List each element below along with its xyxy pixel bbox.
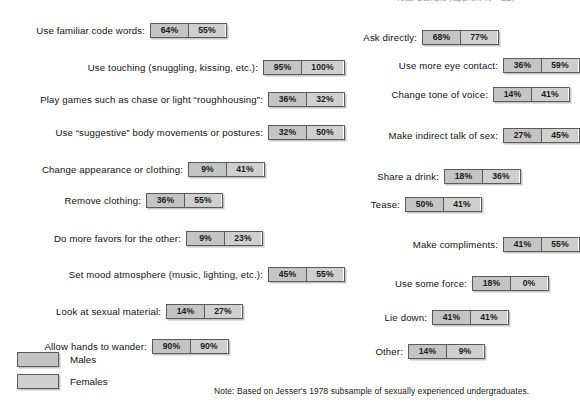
bar-row: Use “suggestive” body movements or postu… [0,122,345,142]
bar-segment-males: 50% [406,198,443,211]
bar-row-label: Change appearance or clothing: [42,164,188,175]
bar-segment-females: 45% [541,129,578,142]
bar-row: Other:14%9% [356,341,485,361]
chart-note: Note: Based on Jesser's 1978 subsample o… [214,386,529,396]
bar-row-label: Lie down: [385,312,432,323]
bar-row: Use more eye contact:36%59% [356,55,580,75]
bar-segment-females: 36% [482,170,519,183]
bar-row-label: Share a drink: [377,171,444,182]
bar-segment-males: 14% [409,345,446,358]
bar-segment-females: 41% [470,311,507,324]
bar-segment-females: 55% [541,238,578,251]
bar-row-label: Look at sexual material: [56,306,166,317]
stacked-bar: 14%41% [493,87,570,102]
bar-row-label: Use some force: [395,278,472,289]
bar-segment-females: 100% [301,61,343,74]
bar-segment-females: 55% [184,194,221,207]
bar-segment-males: 64% [151,24,188,37]
legend: Males Females [17,348,108,392]
bar-row-label: Make compliments: [413,239,503,250]
bar-segment-females: 9% [446,345,483,358]
bar-row: Share a drink:18%36% [356,166,521,186]
bar-row: Do more favors for the other:9%23% [0,228,263,248]
bar-segment-males: 9% [189,163,226,176]
bar-segment-females: 32% [306,93,343,106]
bar-row: Use familiar code words:64%55% [0,20,227,40]
bar-row: Use some force:18%0% [356,273,549,293]
bar-segment-males: 45% [269,268,306,281]
bar-row: Remove clothing:36%55% [0,190,223,210]
bar-segment-females: 27% [204,305,241,318]
stacked-bar: 41%55% [503,237,580,252]
bar-segment-males: 14% [167,305,204,318]
bar-row-label: Set mood atmosphere (music, lighting, et… [69,269,268,280]
bar-row: Change tone of voice:14%41% [356,84,570,104]
bar-row: Use touching (snuggling, kissing, etc.):… [0,57,345,77]
bar-segment-females: 55% [188,24,225,37]
bar-row-label: Ask directly: [363,32,422,43]
bar-row-label: Tease: [371,199,405,210]
bar-segment-females: 50% [306,126,343,139]
stacked-bar: 45%55% [268,267,345,282]
bar-row: Make compliments:41%55% [356,234,580,254]
bar-row: Tease:50%41% [356,194,482,214]
stacked-bar: 36%32% [268,92,345,107]
bar-row-label: Use touching (snuggling, kissing, etc.): [88,62,263,73]
bar-segment-females: 59% [541,59,578,72]
stacked-bar: 18%36% [444,169,521,184]
bar-row-label: Play games such as chase or light “rough… [40,94,268,105]
bar-segment-males: 36% [269,93,306,106]
stacked-bar: 9%23% [186,231,263,246]
bar-segment-females: 41% [226,163,263,176]
bar-row-label: Use more eye contact: [399,60,503,71]
bar-segment-males: 32% [269,126,306,139]
stacked-bar: 36%59% [503,58,580,73]
stacked-bar: 64%55% [150,23,227,38]
bar-row: Lie down:41%41% [356,307,509,327]
bar-segment-females: 23% [224,232,261,245]
stacked-bar: 27%45% [503,128,580,143]
bar-row: Ask directly:68%77% [356,27,499,47]
chart-root: Total Sample (approx. N = 22) Use famili… [0,0,580,412]
legend-item-females: Females [17,370,108,392]
stacked-bar: 68%77% [422,30,499,45]
legend-swatch-males-icon [17,352,59,367]
bar-segment-males: 41% [504,238,541,251]
stacked-bar: 9%41% [188,162,265,177]
bar-segment-males: 36% [504,59,541,72]
bar-segment-females: 0% [510,277,547,290]
bar-segment-females: 41% [531,88,568,101]
stacked-bar: 14%9% [408,344,485,359]
bar-segment-males: 95% [264,61,301,74]
right-column: Ask directly:68%77%Use more eye contact:… [356,0,580,412]
bar-segment-males: 9% [187,232,224,245]
legend-swatch-females-icon [17,374,59,389]
legend-item-males: Males [17,348,108,370]
stacked-bar: 41%41% [432,310,509,325]
bar-segment-males: 90% [153,340,190,353]
bar-row: Play games such as chase or light “rough… [0,89,345,109]
bar-segment-females: 77% [460,31,497,44]
bar-row-label: Remove clothing: [64,195,146,206]
bar-row: Make indirect talk of sex:27%45% [356,125,580,145]
bar-row-label: Other: [375,346,408,357]
bar-segment-females: 55% [306,268,343,281]
bar-row-label: Do more favors for the other: [54,233,186,244]
stacked-bar: 50%41% [405,197,482,212]
stacked-bar: 90%90% [152,339,229,354]
bar-segment-males: 18% [445,170,482,183]
bar-segment-females: 41% [443,198,480,211]
bar-segment-females: 90% [190,340,227,353]
legend-label-females: Females [70,376,108,387]
bar-row-label: Make indirect talk of sex: [389,130,503,141]
bar-segment-males: 18% [473,277,510,290]
stacked-bar: 36%55% [146,193,223,208]
bar-row-label: Use familiar code words: [36,25,150,36]
bar-row: Set mood atmosphere (music, lighting, et… [0,264,345,284]
stacked-bar: 32%50% [268,125,345,140]
stacked-bar: 14%27% [166,304,243,319]
bar-row-label: Change tone of voice: [392,89,494,100]
bar-segment-males: 14% [494,88,531,101]
legend-label-males: Males [70,354,96,365]
bar-row: Change appearance or clothing:9%41% [0,159,265,179]
